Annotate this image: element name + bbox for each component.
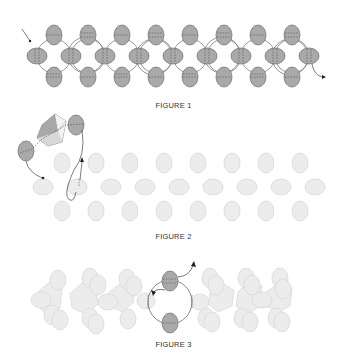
figure-3-caption: FIGURE 3 [0, 340, 347, 349]
figure-3-band [31, 261, 292, 334]
light-beads [33, 153, 325, 221]
arrow-icon [191, 261, 196, 267]
figure-1-caption: FIGURE 1 [0, 101, 347, 110]
dark-beads [27, 25, 319, 87]
faded-embellished-beads [31, 268, 292, 334]
figure-2-caption: FIGURE 2 [0, 232, 347, 241]
highlighted-unit [148, 261, 196, 333]
figure-1-band [22, 25, 326, 87]
diagram-canvas [0, 0, 347, 354]
figure-2-band [18, 114, 325, 221]
crystal-bead [37, 114, 66, 146]
thread-end-knot [42, 177, 45, 180]
